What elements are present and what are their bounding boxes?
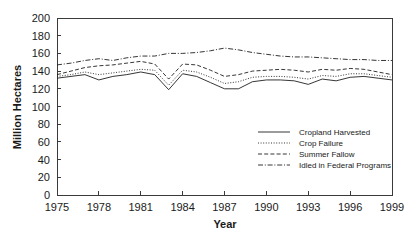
x-axis-tick-labels: 197519781981198419871990199319961999	[45, 201, 404, 213]
series-lines	[57, 48, 392, 90]
x-axis-title: Year	[213, 218, 237, 230]
x-tick-label: 1999	[380, 201, 404, 213]
y-tick-label: 180	[32, 30, 50, 42]
y-tick-label: 60	[38, 136, 50, 148]
chart-legend: Cropland HarvestedCrop FailureSummer Fal…	[258, 128, 391, 170]
y-tick-label: 160	[32, 47, 50, 59]
legend-label: Cropland Harvested	[299, 128, 370, 137]
y-tick-label: 140	[32, 65, 50, 77]
series-line	[57, 61, 392, 79]
y-tick-label: 40	[38, 154, 50, 166]
legend-label: Summer Fallow	[299, 150, 355, 159]
y-tick-label: 200	[32, 12, 50, 24]
y-axis-tick-marks	[57, 18, 61, 195]
y-tick-label: 80	[38, 118, 50, 130]
y-tick-label: 120	[32, 83, 50, 95]
x-tick-label: 1984	[170, 201, 194, 213]
legend-label: Idled in Federal Programs	[299, 161, 391, 170]
x-tick-label: 1981	[129, 201, 153, 213]
chart-container: 020406080100120140160180200 197519781981…	[0, 0, 420, 239]
line-chart: 020406080100120140160180200 197519781981…	[0, 0, 420, 239]
y-axis-tick-labels: 020406080100120140160180200	[32, 12, 50, 201]
x-axis-tick-marks	[57, 191, 392, 195]
y-tick-label: 0	[44, 189, 50, 201]
series-line	[57, 72, 392, 90]
x-tick-label: 1975	[45, 201, 69, 213]
y-axis-title: Million Hectares	[11, 65, 23, 149]
x-tick-label: 1987	[212, 201, 236, 213]
x-tick-label: 1990	[254, 201, 278, 213]
y-tick-label: 20	[38, 171, 50, 183]
x-tick-label: 1993	[296, 201, 320, 213]
legend-label: Crop Failure	[299, 139, 344, 148]
x-tick-label: 1978	[87, 201, 111, 213]
y-tick-label: 100	[32, 101, 50, 113]
series-line	[57, 48, 392, 65]
series-line	[57, 69, 392, 85]
x-tick-label: 1996	[338, 201, 362, 213]
